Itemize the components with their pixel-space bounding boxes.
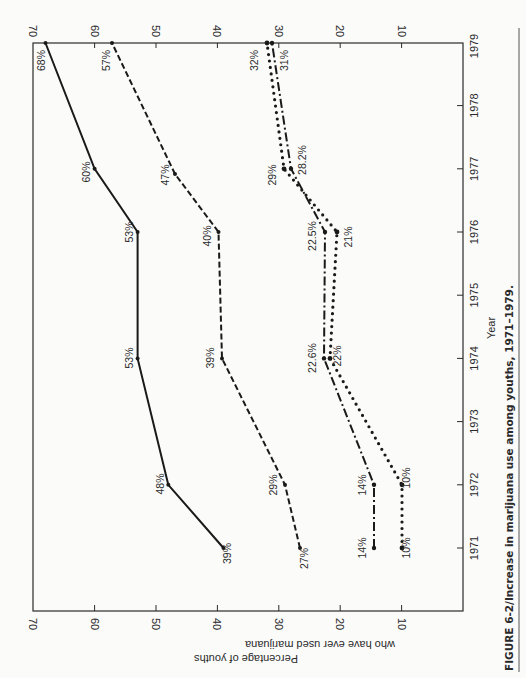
label-b-1972: 29% (267, 474, 279, 495)
label-b-1974: 39% (204, 347, 216, 368)
label-d-1974: 22% (331, 345, 343, 366)
x-tick-1975: 1975 (468, 283, 480, 307)
label-c-1976: 22.5% (306, 221, 318, 251)
y-tick-50: 50 (150, 618, 162, 630)
rotated-line-chart: 70 60 50 40 30 20 10 70 60 50 40 30 20 1… (0, 0, 526, 678)
label-c-1971: 14% (356, 537, 368, 558)
y-tick-10: 10 (396, 618, 408, 630)
label-a-1979: 68% (35, 50, 47, 71)
plot-frame (33, 43, 463, 611)
label-d-1979: 32% (248, 50, 260, 71)
label-a-1974: 53% (123, 347, 135, 368)
y-tick-top-40: 40 (211, 25, 223, 37)
x-tick-1976: 1976 (468, 220, 480, 244)
label-a-1977: 60% (80, 161, 92, 182)
y-axis-title-line1: Percentage of youths (194, 653, 298, 665)
series-c-dash-dot: 14% 14% 22.6% 22.5% 28.2% 31% (270, 41, 376, 559)
y-tick-20: 20 (334, 618, 346, 630)
x-axis-title: Year (485, 317, 497, 340)
label-b-1977: 47% (159, 164, 171, 185)
x-tick-1977: 1977 (468, 157, 480, 181)
y-tick-60: 60 (89, 618, 101, 630)
label-d-1977: 29% (266, 164, 278, 185)
x-tick-1978: 1978 (468, 93, 480, 117)
label-c-1979: 31% (278, 50, 290, 71)
x-tick-1973: 1973 (468, 409, 480, 433)
label-b-1976: 40% (201, 225, 213, 246)
label-d-1972: 10% (400, 467, 412, 488)
y-tick-30: 30 (273, 618, 285, 630)
x-tick-1979: 1979 (468, 34, 480, 58)
label-b-1979: 57% (100, 50, 112, 71)
label-c-1977: 28.2% (296, 145, 308, 175)
y-tick-top-10: 10 (396, 25, 408, 37)
year-axis-ticks (457, 106, 463, 548)
label-b-1971: 27% (298, 548, 310, 569)
y-axis-title-line2: who have ever used marijuana (244, 639, 396, 651)
label-a-1971: 39% (221, 543, 233, 564)
value-axis-labels-bottom: 70 60 50 40 30 20 10 (27, 618, 408, 630)
x-tick-1972: 1972 (468, 473, 480, 497)
x-tick-1974: 1974 (468, 346, 480, 370)
label-a-1972: 48% (154, 473, 166, 494)
year-axis-labels: 1971 1972 1973 1974 1975 1976 1977 1978 … (468, 34, 480, 560)
series-b-dashed: 27% 29% 39% 40% 47% 57% (100, 41, 310, 569)
value-axis-labels-top: 70 60 50 40 30 20 10 (27, 25, 408, 37)
label-c-1974: 22.6% (306, 343, 318, 373)
y-tick-top-50: 50 (150, 25, 162, 37)
y-tick-70: 70 (27, 618, 39, 630)
y-tick-top-60: 60 (89, 25, 101, 37)
label-d-1971: 10% (400, 537, 412, 558)
value-axis-ticks-bottom (95, 605, 402, 611)
y-tick-top-70: 70 (27, 25, 39, 37)
label-a-1976: 53% (123, 221, 135, 242)
y-tick-40: 40 (211, 618, 223, 630)
series-a-solid: 39% 48% 53% 53% 60% 68% (35, 41, 233, 564)
y-tick-top-20: 20 (334, 25, 346, 37)
value-axis-ticks-top (95, 43, 402, 48)
x-tick-1971: 1971 (468, 536, 480, 560)
label-d-1976: 21% (342, 226, 354, 247)
value-axis-title: who have ever used marijuana Percentage … (194, 639, 396, 665)
y-tick-top-30: 30 (273, 25, 285, 37)
label-c-1972: 14% (356, 474, 368, 495)
figure-caption: FIGURE 6-2/Increase in marijuana use amo… (503, 285, 515, 671)
